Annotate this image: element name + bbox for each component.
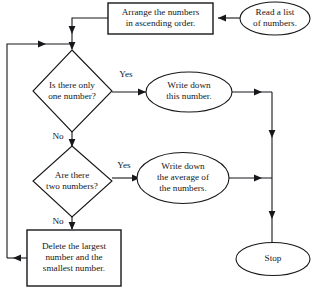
node-decision-two: Are there two numbers? [33, 146, 112, 217]
node-write-average-line3: the numbers. [159, 183, 206, 193]
node-arrange-line2: in ascending order. [126, 18, 196, 28]
edge-write-average-to-rail [228, 175, 272, 182]
node-decision-two-line1: Are there [55, 170, 89, 180]
node-write-average-line1: Write down [161, 161, 205, 171]
node-write-number-line2: this number. [166, 91, 211, 101]
edge-arrange-to-decision-one [69, 18, 108, 50]
node-write-average-line2: the average of [157, 172, 210, 182]
node-decision-two-line2: two numbers? [46, 181, 98, 191]
edge-read-to-arrange [218, 15, 240, 22]
edge-label-decision-two-no: No [52, 216, 64, 226]
node-read-list-line1: Read a list [256, 7, 295, 17]
node-delete-extremes-line2: number and the [45, 252, 102, 262]
node-decision-one-line1: Is there only [49, 80, 95, 90]
node-write-number: Write down this number. [146, 72, 232, 112]
edge-decision-two-yes [112, 175, 140, 182]
node-stop: Stop [236, 243, 310, 276]
node-write-number-line1: Write down [167, 80, 211, 90]
edge-write-number-to-rail [232, 89, 272, 96]
node-delete-extremes-line3: smallest number. [43, 263, 105, 273]
flowchart-svg: Read a list of numbers. Arrange the numb… [0, 0, 316, 300]
node-decision-one: Is there only one number? [33, 50, 112, 132]
edge-label-decision-one-yes: Yes [119, 69, 133, 79]
edge-label-decision-two-yes: Yes [117, 160, 131, 170]
node-write-average: Write down the average of the numbers. [137, 153, 229, 204]
edge-decision-two-no [69, 217, 76, 230]
node-delete-extremes: Delete the largest number and the smalle… [27, 230, 121, 286]
edge-delete-to-feedback [7, 255, 27, 262]
node-read-list-line2: of numbers. [253, 18, 297, 28]
flowchart-diagram: Read a list of numbers. Arrange the numb… [0, 0, 316, 300]
node-delete-extremes-line1: Delete the largest [42, 241, 107, 251]
edge-decision-one-yes [112, 89, 146, 96]
node-arrange-line1: Arrange the numbers [122, 7, 200, 17]
node-read-list: Read a list of numbers. [240, 2, 310, 35]
edge-decision-one-no [69, 132, 76, 147]
node-arrange: Arrange the numbers in ascending order. [108, 3, 213, 34]
edge-rail-to-stop [269, 92, 276, 243]
node-decision-one-line2: one number? [48, 91, 96, 101]
edge-label-decision-one-no: No [52, 131, 64, 141]
node-stop-label: Stop [265, 253, 282, 263]
